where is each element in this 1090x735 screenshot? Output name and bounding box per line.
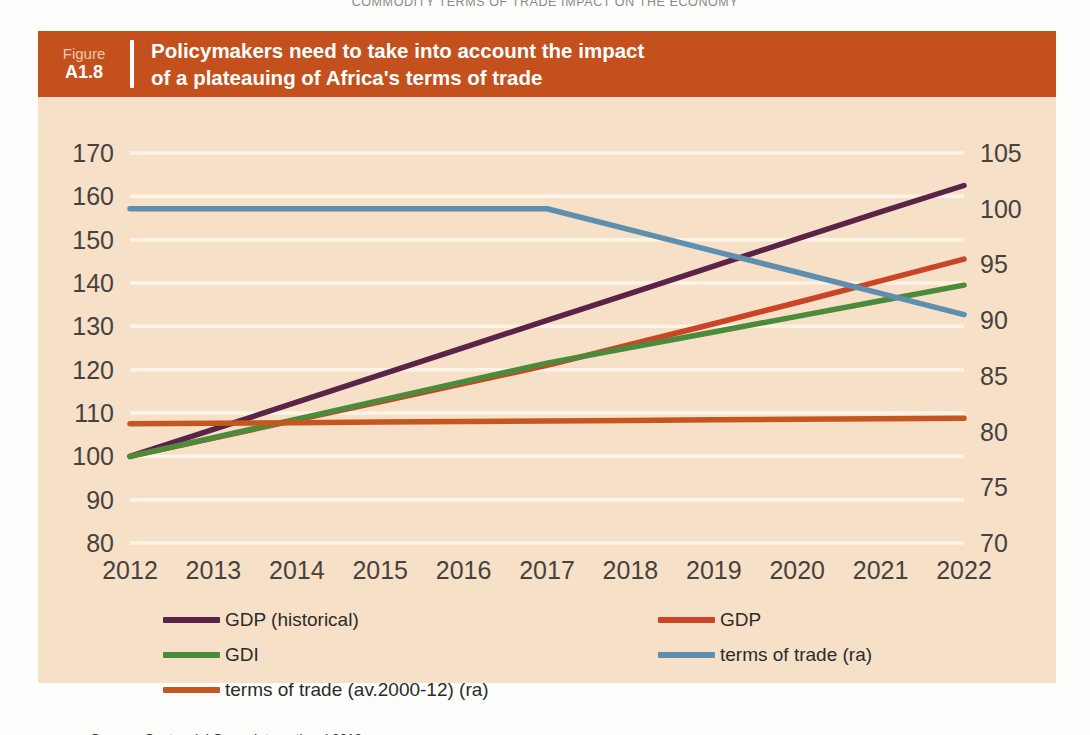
figure-title-line-2: of a plateauing of Africa's terms of tra…	[151, 64, 1056, 91]
legend-label-gdp: GDP	[720, 609, 761, 631]
y-axis-left-tick-label: 150	[72, 226, 114, 254]
y-axis-left-tick-label: 110	[74, 399, 114, 427]
figure-page: COMMODITY TERMS OF TRADE IMPACT ON THE E…	[0, 0, 1090, 735]
figure-banner: Figure A1.8 Policymakers need to take in…	[38, 31, 1056, 97]
x-axis-tick-label: 2022	[936, 556, 992, 584]
legend-label-terms-of-trade: terms of trade (ra)	[720, 644, 872, 666]
source-label: Source:	[90, 731, 140, 735]
legend-swatch-gdp	[658, 617, 715, 623]
series-line-gdp-historical	[130, 186, 964, 457]
y-axis-right-tick-label: 95	[980, 250, 1008, 278]
x-axis-tick-label: 2015	[352, 556, 408, 584]
y-axis-left-tick-label: 80	[86, 529, 114, 557]
running-head: COMMODITY TERMS OF TRADE IMPACT ON THE E…	[0, 0, 1090, 7]
x-axis-tick-label: 2012	[102, 556, 158, 584]
legend-swatch-terms-of-trade-avg	[163, 687, 220, 693]
figure-title: Policymakers need to take into account t…	[134, 31, 1056, 97]
legend-item-terms-of-trade-avg[interactable]: terms of trade (av.2000-12) (ra)	[163, 679, 489, 701]
legend-label-gdp-historical: GDP (historical)	[225, 609, 359, 631]
y-axis-right-tick-label: 105	[980, 139, 1022, 167]
y-axis-right-tick-label: 80	[980, 418, 1008, 446]
y-axis-left-tick-label: 160	[72, 182, 114, 210]
y-axis-left-tick-label: 90	[86, 486, 114, 514]
y-axis-left-tick-label: 140	[72, 269, 114, 297]
legend-swatch-gdp-historical	[163, 617, 220, 623]
x-axis-tick-label: 2017	[519, 556, 575, 584]
series-line-terms-of-trade-av-2000-12-ra	[130, 418, 964, 424]
y-axis-left-tick-label: 170	[72, 139, 114, 167]
source-line: Source:Centennial Group International 20…	[90, 731, 362, 735]
source-text: Centennial Group International 2013	[144, 731, 362, 735]
x-axis-tick-label: 2013	[186, 556, 242, 584]
legend-swatch-gdi	[163, 652, 220, 658]
y-axis-right-tick-label: 100	[980, 195, 1022, 223]
figure-number-block: Figure A1.8	[38, 31, 130, 97]
x-axis-tick-label: 2020	[769, 556, 825, 584]
y-axis-left-tick-label: 100	[72, 442, 114, 470]
figure-label-word: Figure	[63, 46, 106, 63]
x-axis-tick-label: 2021	[853, 556, 909, 584]
chart-legend: GDP (historical) GDP GDI terms of trade …	[38, 609, 1056, 687]
y-axis-right-tick-label: 70	[980, 529, 1008, 557]
figure-number: A1.8	[65, 62, 103, 82]
plot-area: 8090100110120130140150160170707580859095…	[38, 97, 1056, 683]
y-axis-right-tick-label: 90	[980, 306, 1008, 334]
x-axis-tick-label: 2016	[436, 556, 492, 584]
y-axis-right-tick-label: 85	[980, 362, 1008, 390]
x-axis-tick-label: 2014	[269, 556, 325, 584]
figure-card: Figure A1.8 Policymakers need to take in…	[38, 31, 1056, 683]
x-axis-tick-label: 2019	[686, 556, 742, 584]
legend-item-terms-of-trade[interactable]: terms of trade (ra)	[658, 644, 872, 666]
legend-label-terms-of-trade-avg: terms of trade (av.2000-12) (ra)	[225, 679, 489, 701]
figure-title-line-1: Policymakers need to take into account t…	[151, 37, 1056, 64]
legend-item-gdp-historical[interactable]: GDP (historical)	[163, 609, 359, 631]
legend-item-gdi[interactable]: GDI	[163, 644, 259, 666]
line-chart: 8090100110120130140150160170707580859095…	[38, 97, 1056, 617]
legend-item-gdp[interactable]: GDP	[658, 609, 761, 631]
legend-label-gdi: GDI	[225, 644, 259, 666]
y-axis-left-tick-label: 120	[72, 356, 114, 384]
x-axis-tick-label: 2018	[603, 556, 659, 584]
legend-swatch-terms-of-trade	[658, 652, 715, 658]
y-axis-right-tick-label: 75	[980, 473, 1008, 501]
y-axis-left-tick-label: 130	[72, 312, 114, 340]
